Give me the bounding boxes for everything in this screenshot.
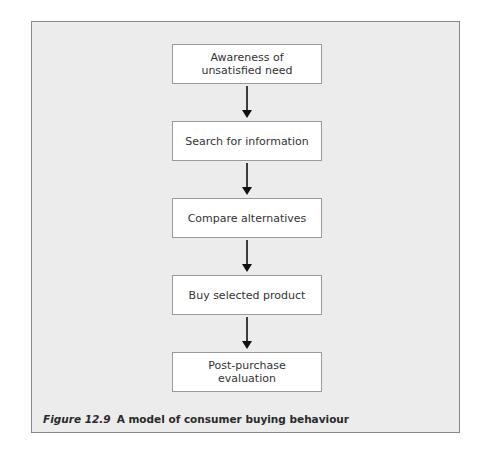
step-label: Search for information: [185, 135, 308, 148]
step-box-search: Search for information: [172, 121, 322, 161]
arrow-down-icon: [240, 84, 254, 120]
step-label: Compare alternatives: [188, 212, 307, 225]
step-label: Awareness of unsatisfied need: [179, 51, 315, 77]
step-label: Post-purchase evaluation: [179, 359, 315, 385]
figure-caption: Figure 12.9A model of consumer buying be…: [43, 413, 349, 425]
figure-number: Figure 12.9: [43, 413, 111, 425]
step-box-evaluation: Post-purchase evaluation: [172, 352, 322, 392]
step-box-buy: Buy selected product: [172, 275, 322, 315]
arrow-down-icon: [240, 238, 254, 274]
figure-title: A model of consumer buying behaviour: [117, 413, 349, 425]
step-box-compare: Compare alternatives: [172, 198, 322, 238]
arrow-down-icon: [240, 315, 254, 351]
arrow-down-icon: [240, 161, 254, 197]
step-label: Buy selected product: [189, 289, 306, 302]
step-box-awareness: Awareness of unsatisfied need: [172, 44, 322, 84]
